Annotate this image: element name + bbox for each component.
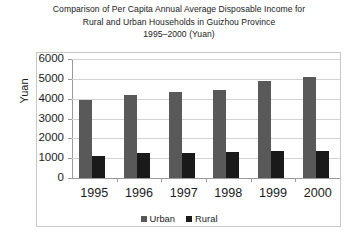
bar-rural-1995: [92, 156, 105, 178]
gridline: [72, 119, 340, 120]
gridline: [72, 79, 340, 80]
x-tick-mark: [251, 178, 252, 182]
y-tick-label: 2000: [0, 132, 64, 144]
legend-item-rural: Rural: [186, 213, 217, 224]
y-tick-mark: [68, 178, 72, 179]
y-tick-label: 5000: [0, 73, 64, 85]
gridline: [72, 138, 340, 139]
legend-swatch-urban-icon: [141, 216, 147, 222]
gridline: [72, 99, 340, 100]
y-tick-mark: [68, 119, 72, 120]
bar-rural-2000: [316, 151, 329, 178]
y-tick-mark: [68, 158, 72, 159]
bar-urban-1997: [169, 92, 182, 178]
bar-urban-2000: [303, 77, 316, 178]
legend-label-urban: Urban: [150, 213, 176, 224]
y-tick-label: 0: [0, 172, 64, 184]
y-tick-mark: [68, 99, 72, 100]
bar-rural-1996: [137, 153, 150, 178]
y-tick-label: 4000: [0, 93, 64, 105]
gridline: [72, 158, 340, 159]
chart-title: Comparison of Per Capita Annual Average …: [0, 3, 358, 41]
x-tick-mark: [206, 178, 207, 182]
plot-area: [72, 59, 340, 178]
y-tick-label: 1000: [0, 152, 64, 164]
x-tick-mark: [295, 178, 296, 182]
chart-figure: Comparison of Per Capita Annual Average …: [0, 0, 358, 233]
gridline: [72, 59, 340, 60]
legend-item-urban: Urban: [141, 213, 176, 224]
y-tick-label: 3000: [0, 113, 64, 125]
legend-swatch-rural-icon: [186, 216, 192, 222]
bar-urban-1998: [213, 90, 226, 178]
x-tick-mark: [161, 178, 162, 182]
bar-rural-1999: [271, 151, 284, 178]
bar-urban-1996: [124, 95, 137, 178]
y-tick-mark: [68, 59, 72, 60]
y-tick-label: 6000: [0, 53, 64, 65]
y-tick-mark: [68, 79, 72, 80]
bar-urban-1999: [258, 81, 271, 178]
x-tick-mark: [117, 178, 118, 182]
y-tick-mark: [68, 138, 72, 139]
bar-rural-1998: [226, 152, 239, 178]
x-tick-label-2000: 2000: [288, 186, 348, 200]
bar-urban-1995: [79, 100, 92, 178]
bar-rural-1997: [182, 153, 195, 178]
legend-label-rural: Rural: [195, 213, 217, 224]
chart-legend: Urban Rural: [0, 213, 358, 224]
